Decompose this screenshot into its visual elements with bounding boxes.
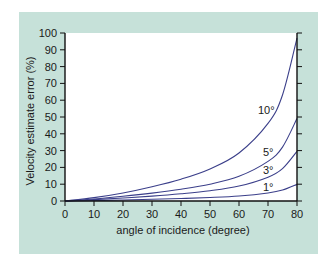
x-tick-label: 50 (204, 208, 216, 220)
y-tick-label: 50 (45, 111, 57, 123)
y-tick-label: 10 (45, 178, 57, 190)
curve-label-5deg: 5° (263, 146, 274, 158)
x-tick-label: 30 (146, 208, 158, 220)
y-tick-label: 20 (45, 161, 57, 173)
y-tick-label: 60 (45, 94, 57, 106)
y-tick-label: 80 (45, 61, 57, 73)
x-tick-label: 0 (62, 208, 68, 220)
y-tick-label: 40 (45, 128, 57, 140)
x-tick-label: 20 (117, 208, 129, 220)
line-chart: 010203040506070809010001020304050607080a… (0, 0, 332, 264)
x-tick-label: 70 (262, 208, 274, 220)
x-tick-label: 60 (233, 208, 245, 220)
y-tick-label: 0 (51, 195, 57, 207)
x-axis-title: angle of incidence (degree) (116, 224, 249, 236)
x-tick-label: 80 (291, 208, 303, 220)
y-tick-label: 90 (45, 44, 57, 56)
y-tick-label: 30 (45, 145, 57, 157)
y-tick-label: 100 (39, 27, 57, 39)
x-tick-label: 10 (88, 208, 100, 220)
x-tick-label: 40 (175, 208, 187, 220)
y-tick-label: 70 (45, 77, 57, 89)
curve-label-3deg: 3° (263, 164, 274, 176)
curve-label-1deg: 1° (263, 181, 274, 193)
curve-label-10deg: 10° (258, 104, 275, 116)
y-axis-title: Velocity estimate error (%) (24, 57, 36, 186)
